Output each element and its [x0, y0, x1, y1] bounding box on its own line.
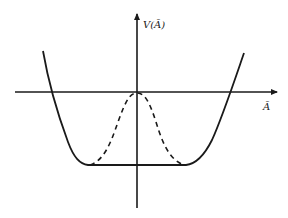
y-axis-label: V(Ā) [143, 19, 165, 30]
solid-potential-curve [43, 51, 244, 165]
x-axis-label: Ā [262, 101, 270, 112]
potential-diagram: V(Ā) Ā [0, 0, 288, 218]
